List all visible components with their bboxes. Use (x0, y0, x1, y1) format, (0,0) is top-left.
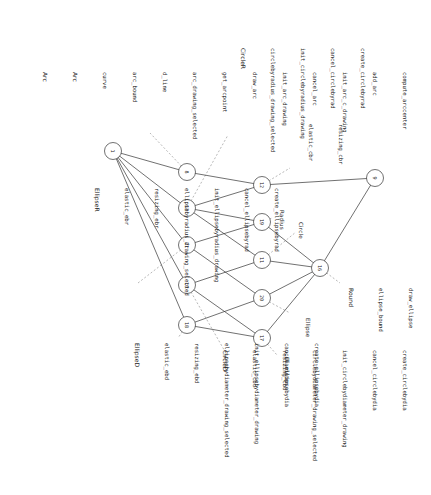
method-label: elastic_cbr (306, 124, 316, 164)
node-id-label: 9 (372, 176, 378, 179)
lattice-node: 1 (105, 143, 122, 160)
method-label: cancel_circlebydia (370, 350, 380, 461)
method-label: elastic_cbd (250, 350, 260, 461)
edge (262, 178, 375, 185)
node-id-label: 18 (184, 322, 190, 328)
class-caption: Arc (70, 72, 80, 139)
method-label: resizing_cbr (336, 124, 346, 164)
method-label: create_ellipsebyrad (272, 188, 282, 296)
method-label: create_circlebydia (400, 350, 410, 461)
label-group-circle-d: create_circlebydia cancel_circlebydia in… (200, 350, 430, 461)
method-label: d_line (160, 72, 170, 139)
method-label: ellipsebyradius_drawing_selected (182, 188, 192, 296)
label-group-cbr: resizing_cbr elastic_cbr (286, 124, 366, 164)
method-label: resizing_ebr (152, 188, 162, 296)
method-label: init_circlebydiameter_drawing (340, 350, 350, 461)
method-label: arc_bound (130, 72, 140, 139)
method-label: circlebydiameter_drawing_selected (310, 350, 320, 461)
method-label: ellipse_bound (376, 288, 386, 345)
node-id-label: 8 (184, 170, 190, 173)
method-label: cancel_ellipsebyrad (242, 188, 252, 296)
lattice-node: 18 (179, 317, 196, 334)
label-group-ellipse-r: create_ellipsebyrad cancel_ellipsebyrad … (72, 188, 302, 296)
class-caption: CircleR (238, 48, 248, 152)
edge (187, 325, 262, 338)
edge (187, 298, 262, 325)
node-id-label: 1 (110, 149, 116, 152)
class-caption: CircleD (220, 350, 230, 461)
concept-circle: Circle (298, 222, 304, 239)
method-label: arc_drawing_selected (190, 72, 200, 139)
method-label: elastic_ebd (162, 343, 172, 458)
class-caption: EllipseR (92, 188, 102, 296)
edge (187, 172, 262, 185)
concept-radius: Radius (279, 210, 285, 230)
lattice-node: 8 (179, 164, 196, 181)
label-group-round: set_latestellipse redisplay_ellipse list… (326, 288, 431, 345)
lattice-node: 16 (312, 260, 329, 277)
concept-ellipse: Ellipse (305, 318, 311, 338)
node-id-label: 20 (259, 295, 265, 301)
method-label: circlebyradius_drawing_selected (268, 48, 278, 152)
class-caption: EllipseD (132, 343, 142, 458)
class-caption: Arc (40, 72, 50, 139)
method-label: curve (100, 72, 110, 139)
node-id-label: 16 (317, 265, 323, 271)
edge (320, 178, 375, 268)
node-id-label: 17 (259, 335, 265, 341)
edge (113, 151, 187, 172)
method-label: init_ellipsebyradius_drawing (212, 188, 222, 296)
method-label: compute_arccenter (400, 72, 410, 139)
method-label: draw_ellipse (406, 288, 416, 345)
concept-diameter: Diameter (284, 357, 290, 385)
concept-lattice-diagram: 18132110181219112017169 set_latestarc re… (0, 0, 431, 495)
method-label: elastic_ebr (122, 188, 132, 296)
class-caption: Round (346, 288, 356, 345)
lattice-node: 9 (367, 170, 384, 187)
